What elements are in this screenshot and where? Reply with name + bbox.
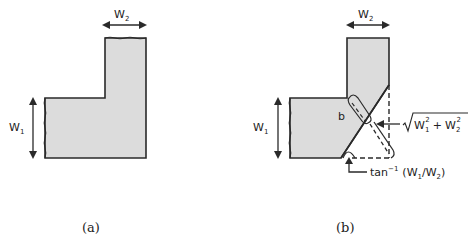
panel-a: W2 W1 (a) bbox=[9, 8, 146, 235]
bracket-end bbox=[391, 150, 394, 158]
sqrt-formula: W12+W22 bbox=[414, 116, 461, 134]
angle-formula: tan−1(W1/W2) bbox=[370, 165, 445, 181]
caption-a: (a) bbox=[82, 220, 100, 235]
panel-b: b W2 W1 W12+W22 tan−1(W1/W2) (b) bbox=[253, 8, 468, 235]
mitered-l-strip bbox=[290, 38, 389, 158]
w2-label: W2 bbox=[114, 8, 129, 23]
w1-label-b: W1 bbox=[253, 121, 268, 136]
w1-label: W1 bbox=[9, 121, 24, 136]
angle-leader-head bbox=[345, 157, 353, 164]
w2-label-b: W2 bbox=[358, 8, 373, 23]
diagram-canvas: W2 W1 (a) b W2 W1 W12+W22 bbox=[0, 0, 470, 243]
l-shaped-strip bbox=[45, 38, 146, 158]
solid-width-line bbox=[374, 122, 393, 150]
b-label: b bbox=[338, 110, 345, 123]
caption-b: (b) bbox=[336, 220, 354, 235]
